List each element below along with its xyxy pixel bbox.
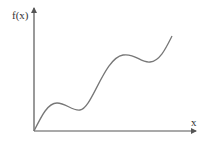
function-curve [34,36,172,131]
x-axis-label: x [191,117,197,128]
plot-canvas [0,0,209,143]
y-axis-label: f(x) [12,10,29,21]
function-plot: f(x) x [0,0,209,143]
